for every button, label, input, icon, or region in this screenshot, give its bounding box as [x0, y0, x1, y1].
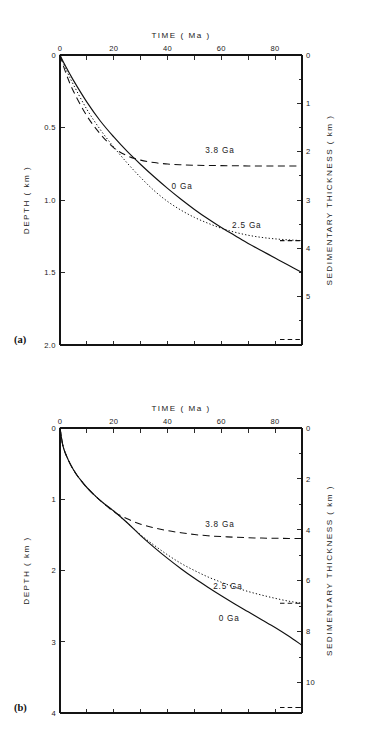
left-axis-tick-label: 3: [51, 638, 56, 647]
right-axis-tick-label: 8: [306, 627, 311, 636]
left-axis-tick-label: 0: [51, 424, 56, 433]
left-axis-tick-label: 0.5: [44, 123, 56, 132]
top-axis-tick-label: 60: [217, 44, 226, 53]
figure-container: 020406080TIME ( Ma )00.51.01.52.0DEPTH (…: [0, 0, 367, 739]
right-axis-title: SEDIMENTARY THICKNESS ( km ): [325, 115, 334, 286]
curve-annotation: 0 Ga: [219, 614, 240, 623]
curve-3-8-ga: [60, 55, 302, 166]
top-axis-tick-label: 40: [163, 417, 172, 426]
top-axis-title: TIME ( Ma ): [151, 31, 210, 40]
curve-0-ga: [60, 55, 302, 273]
left-axis-tick-label: 2.0: [44, 341, 56, 350]
right-axis-tick-label: 10: [306, 678, 315, 687]
curve-annotation: 3.8 Ga: [205, 146, 234, 155]
curve-annotation: 3.8 Ga: [205, 520, 234, 529]
panel-a-plot: 020406080TIME ( Ma )00.51.01.52.0DEPTH (…: [0, 0, 367, 370]
curve-0-ga: [60, 428, 302, 645]
curve-annotation: 0 Ga: [172, 182, 193, 191]
right-axis-title: SEDIMENTARY THICKNESS ( km ): [325, 485, 334, 656]
left-axis-title: DEPTH ( km ): [22, 536, 31, 604]
panel-letter-b: (b): [14, 702, 27, 714]
curve-2-5-ga: [60, 428, 302, 603]
left-axis-tick-label: 1.0: [44, 196, 56, 205]
panel-b-plot: 020406080TIME ( Ma )01234DEPTH ( km )024…: [0, 370, 367, 739]
right-axis-tick-label: 2: [306, 147, 311, 156]
left-axis-tick-label: 1: [51, 495, 56, 504]
left-axis-tick-label: 2: [51, 566, 56, 575]
right-axis-tick-label: 5: [306, 292, 311, 301]
top-axis-tick-label: 20: [109, 417, 118, 426]
curve-annotation: 2.5 Ga: [232, 221, 261, 230]
right-axis-tick-label: 3: [306, 196, 311, 205]
left-axis-tick-label: 1.5: [44, 268, 56, 277]
curve-3-8-ga: [60, 428, 302, 539]
top-axis-tick-label: 80: [270, 417, 279, 426]
right-axis-tick-label: 2: [306, 475, 311, 484]
left-axis-tick-label: 0: [51, 51, 56, 60]
right-axis-tick-label: 1: [306, 99, 311, 108]
curve-2-5-ga: [60, 55, 302, 241]
panel-b: 020406080TIME ( Ma )01234DEPTH ( km )024…: [0, 370, 367, 739]
right-axis-tick-label: 6: [306, 576, 311, 585]
top-axis-tick-label: 20: [109, 44, 118, 53]
top-axis-title: TIME ( Ma ): [151, 404, 210, 413]
left-axis-tick-label: 4: [51, 709, 56, 718]
panel-letter-a: (a): [14, 334, 27, 346]
left-axis-title: DEPTH ( km ): [22, 166, 31, 234]
top-axis-tick-label: 40: [163, 44, 172, 53]
right-axis-tick-label: 4: [306, 244, 311, 253]
panel-a: 020406080TIME ( Ma )00.51.01.52.0DEPTH (…: [0, 0, 367, 370]
curve-annotation: 2.5 Ga: [213, 582, 242, 591]
right-axis-tick-label: 4: [306, 526, 311, 535]
right-axis-tick-label: 0: [306, 51, 311, 60]
top-axis-tick-label: 0: [58, 44, 63, 53]
top-axis-tick-label: 80: [270, 44, 279, 53]
top-axis-tick-label: 0: [58, 417, 63, 426]
right-axis-tick-label: 0: [306, 424, 311, 433]
top-axis-tick-label: 60: [217, 417, 226, 426]
